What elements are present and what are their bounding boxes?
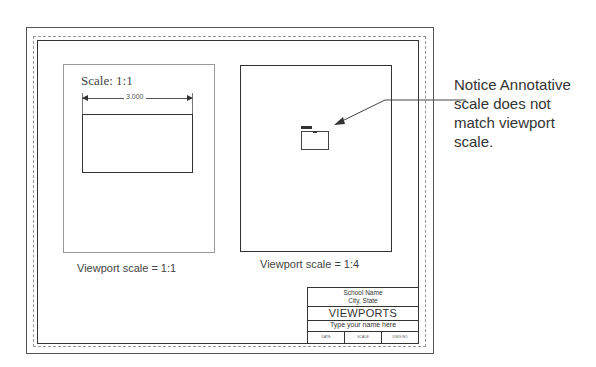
title-block: School Name City, State VIEWPORTS Type y… [307,287,419,344]
title-block-cell-date: DATE [308,332,345,344]
title-block-title: VIEWPORTS [308,307,418,319]
rectangle-geometry [82,114,193,173]
viewport-right[interactable] [240,65,392,252]
rectangle-geometry-scaled [301,131,329,150]
annotation-scale-text-bar [301,126,312,129]
dimension-value: 3.000 [124,93,146,100]
arrow-right-icon [187,95,193,101]
viewport-right-caption: Viewport scale = 1:4 [260,258,359,270]
title-block-cells: DATE SCALE DWG NO [308,332,418,344]
title-block-cell-dwg: DWG NO [382,332,418,344]
title-block-city: City, State [308,297,418,304]
scale-label: Scale: 1:1 [81,73,133,89]
arrow-left-icon [82,95,88,101]
viewport-left-caption: Viewport scale = 1:1 [77,262,176,274]
callout-note: Notice Annotative scale does not match v… [454,75,594,151]
title-block-school: School Name [308,289,418,296]
scaled-dimension-text [313,131,317,133]
title-block-cell-scale: SCALE [345,332,382,344]
title-block-name-field[interactable]: Type your name here [308,321,418,328]
